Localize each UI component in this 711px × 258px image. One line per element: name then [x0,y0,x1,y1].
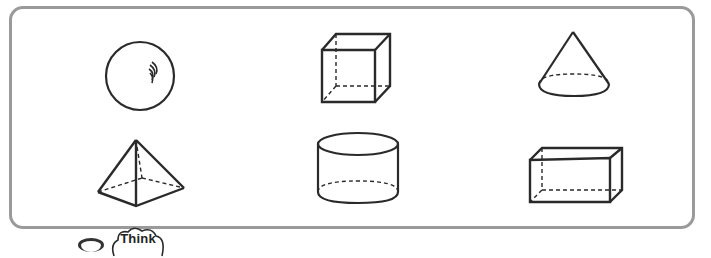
square-pyramid-shape [96,138,186,208]
mascot-head-icon [78,238,104,252]
cube-shape [320,32,392,104]
rectangular-prism-shape [528,146,624,204]
cylinder-shape [316,130,400,206]
think-badge: Think [108,226,168,256]
think-label: Think [108,231,168,246]
sphere-shape [104,40,176,112]
cone-shape [536,30,612,100]
